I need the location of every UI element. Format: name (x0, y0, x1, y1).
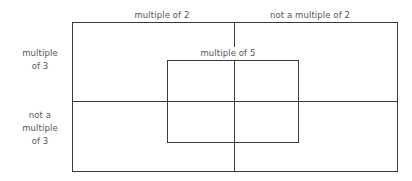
row-header-multiple-of-3: multiple of 3 (5, 47, 75, 73)
column-header-multiple-of-2: multiple of 2 (134, 9, 189, 22)
overlay-label-multiple-of-5: multiple of 5 (198, 47, 257, 60)
row-header-not-a-multiple-of-3-line-2: multiple (5, 122, 75, 135)
overlay-rect-multiple-of-5 (167, 60, 299, 143)
row-header-not-a-multiple-of-3-line-1: not a (5, 109, 75, 122)
row-header-multiple-of-3-line-2: of 3 (5, 60, 75, 73)
row-header-not-a-multiple-of-3-line-3: of 3 (5, 135, 75, 148)
row-header-not-a-multiple-of-3: not a multiple of 3 (5, 109, 75, 148)
row-header-multiple-of-3-line-1: multiple (5, 47, 75, 60)
column-header-not-a-multiple-of-2: not a multiple of 2 (270, 9, 350, 22)
carroll-diagram: multiple of 2 not a multiple of 2 multip… (0, 0, 412, 181)
